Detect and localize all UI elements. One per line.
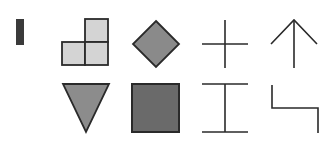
l-tromino-cell <box>62 42 85 65</box>
dark-bar-shape <box>16 19 24 45</box>
shapes-svg <box>0 0 331 148</box>
shape-figure <box>0 0 331 148</box>
dark-square-shape <box>132 84 179 132</box>
l-tromino-cell <box>85 19 108 42</box>
l-tromino-cell <box>85 42 108 65</box>
